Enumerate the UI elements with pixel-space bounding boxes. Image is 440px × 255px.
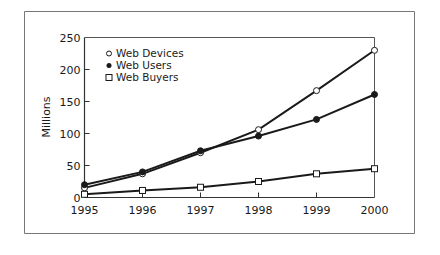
x-tick-label: 1999 xyxy=(303,204,331,217)
open-square-icon xyxy=(106,75,112,81)
open-square-marker xyxy=(256,179,262,185)
open-square-marker xyxy=(372,166,378,172)
legend-item: Web Devices xyxy=(107,47,184,59)
open-circle-marker xyxy=(314,88,320,94)
x-tick-label: 1998 xyxy=(245,204,273,217)
legend-item: Web Users xyxy=(107,59,172,71)
legend: Web DevicesWeb UsersWeb Buyers xyxy=(106,47,184,83)
open-square-marker xyxy=(198,184,204,190)
y-tick-label: 250 xyxy=(60,32,81,45)
x-tick-label: 2000 xyxy=(361,204,389,217)
filled-circle-marker xyxy=(314,116,320,122)
x-axis-ticks: 199519961997199819992000 xyxy=(71,193,389,217)
y-tick-label: 150 xyxy=(60,96,81,109)
series-web-buyers xyxy=(82,166,378,198)
filled-circle-marker xyxy=(140,169,146,175)
series-line xyxy=(85,169,375,195)
open-circle-marker xyxy=(256,127,262,133)
y-tick-label: 200 xyxy=(60,64,81,77)
series-line xyxy=(85,94,375,184)
line-chart: 050100150200250 199519961997199819992000… xyxy=(0,0,440,255)
x-tick-label: 1996 xyxy=(129,204,157,217)
legend-item: Web Buyers xyxy=(106,71,179,83)
filled-circle-marker xyxy=(198,148,204,154)
open-square-marker xyxy=(314,171,320,177)
open-square-marker xyxy=(140,187,146,193)
open-circle-marker xyxy=(372,47,378,53)
legend-label: Web Users xyxy=(116,59,172,71)
filled-circle-icon xyxy=(107,63,112,68)
filled-circle-marker xyxy=(256,133,262,139)
legend-label: Web Devices xyxy=(116,47,184,59)
filled-circle-marker xyxy=(82,182,88,188)
x-tick-label: 1997 xyxy=(187,204,215,217)
legend-label: Web Buyers xyxy=(116,71,179,83)
filled-circle-marker xyxy=(372,91,378,97)
x-tick-label: 1995 xyxy=(71,204,99,217)
open-square-marker xyxy=(82,191,88,197)
y-tick-label: 100 xyxy=(60,128,81,141)
y-axis-label: Millions xyxy=(40,96,53,137)
open-circle-icon xyxy=(107,51,112,56)
outer-frame-border xyxy=(25,12,415,234)
y-tick-label: 50 xyxy=(67,160,81,173)
